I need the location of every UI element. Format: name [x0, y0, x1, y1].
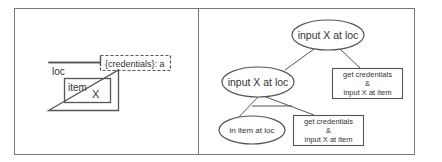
svg-text:&: & — [326, 126, 331, 135]
svg-text:&: & — [365, 79, 370, 88]
diagram-canvas: {credentials}: a loc item X input X at l… — [0, 0, 442, 162]
item-label: item — [68, 82, 87, 93]
x-label: X — [92, 88, 100, 100]
mid-node-label: input X at loc — [228, 76, 289, 88]
svg-text:input X at item: input X at item — [305, 135, 353, 144]
right-panel: input X at loc input X at loc get creden… — [219, 20, 403, 146]
svg-text:get credentials: get credentials — [304, 117, 353, 126]
leaf-node-label: in item at loc — [230, 126, 275, 135]
credentials-tag-label: {credentials}: a — [105, 59, 165, 69]
root-node-label: input X at loc — [298, 29, 359, 41]
loc-label: loc — [52, 66, 65, 77]
left-panel: {credentials}: a loc item X — [49, 56, 171, 111]
svg-text:input X at item: input X at item — [344, 88, 392, 97]
svg-text:get credentials: get credentials — [343, 70, 392, 79]
